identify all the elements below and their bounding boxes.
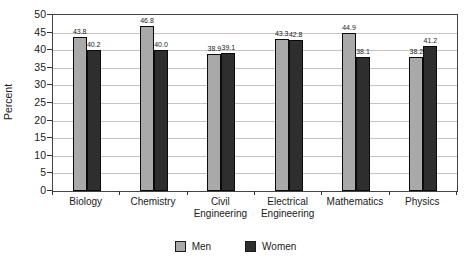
- bar-men-3: [275, 39, 289, 191]
- y-tick-label: 50: [18, 7, 46, 21]
- y-tick-label: 0: [18, 183, 46, 197]
- gridline: [53, 50, 457, 51]
- y-tick-label: 25: [18, 95, 46, 109]
- category-label-0: Biology: [52, 196, 119, 208]
- plot-area: 43.840.246.840.038.939.143.342.844.938.1…: [52, 14, 458, 192]
- value-label: 39.1: [213, 44, 243, 52]
- y-tick-label: 5: [18, 165, 46, 179]
- value-label: 44.9: [334, 24, 364, 32]
- bar-men-1: [140, 26, 154, 191]
- x-tick-mark: [321, 191, 322, 195]
- gridline: [53, 103, 457, 104]
- x-tick-mark: [389, 191, 390, 195]
- y-tick-label: 40: [18, 42, 46, 56]
- legend-item-women: Women: [245, 241, 296, 252]
- category-label-3: Electrical Engineering: [254, 196, 321, 219]
- y-tick-label: 20: [18, 113, 46, 127]
- value-label: 43.8: [65, 28, 95, 36]
- legend-label: Men: [192, 241, 211, 252]
- bar-men-5: [409, 57, 423, 192]
- y-tick-label: 35: [18, 60, 46, 74]
- gridline: [53, 121, 457, 122]
- bar-women-1: [154, 50, 168, 191]
- y-tick-label: 15: [18, 130, 46, 144]
- gridline: [53, 156, 457, 157]
- legend-item-men: Men: [175, 241, 211, 252]
- x-tick-mark: [254, 191, 255, 195]
- legend-label: Women: [262, 241, 296, 252]
- bar-men-0: [73, 37, 87, 191]
- category-label-1: Chemistry: [119, 196, 186, 208]
- category-label-5: Physics: [389, 196, 456, 208]
- bar-men-4: [342, 33, 356, 191]
- gridline: [53, 173, 457, 174]
- legend-swatch-women: [245, 241, 256, 252]
- value-label: 40.0: [146, 41, 176, 49]
- bar-women-3: [289, 40, 303, 191]
- gridline: [53, 68, 457, 69]
- y-axis-title: Percent: [2, 22, 16, 182]
- value-label: 41.2: [415, 37, 445, 45]
- x-tick-mark: [456, 191, 457, 195]
- legend-swatch-men: [175, 241, 186, 252]
- bar-chart: Percent 05101520253035404550 43.840.246.…: [0, 0, 471, 272]
- y-tick-label: 45: [18, 25, 46, 39]
- gridline: [53, 138, 457, 139]
- x-tick-mark: [119, 191, 120, 195]
- legend: MenWomen: [0, 241, 471, 252]
- y-tick-label: 10: [18, 148, 46, 162]
- x-tick-mark: [52, 191, 53, 195]
- value-label: 42.8: [281, 31, 311, 39]
- value-label: 40.2: [79, 41, 109, 49]
- bar-women-4: [356, 57, 370, 191]
- x-tick-mark: [187, 191, 188, 195]
- value-label: 38.1: [348, 48, 378, 56]
- value-label: 46.8: [132, 17, 162, 25]
- bar-women-2: [221, 53, 235, 191]
- bar-women-5: [423, 46, 437, 191]
- category-label-2: Civil Engineering: [187, 196, 254, 219]
- category-label-4: Mathematics: [321, 196, 388, 208]
- bar-women-0: [87, 50, 101, 192]
- gridline: [53, 33, 457, 34]
- gridline: [53, 85, 457, 86]
- y-tick-label: 30: [18, 77, 46, 91]
- bar-men-2: [207, 54, 221, 191]
